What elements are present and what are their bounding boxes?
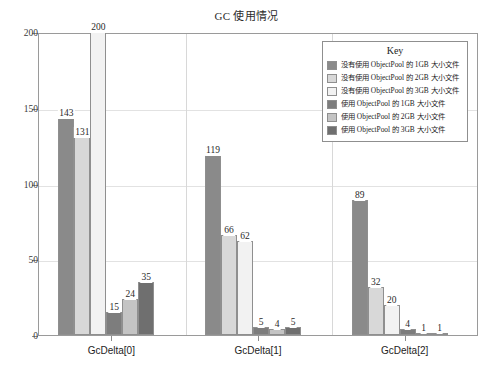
legend-swatch-icon (327, 74, 337, 83)
chart-title: GC 使用情况 (0, 7, 493, 23)
legend-item: 使用 ObjectPool 的 2GB 大小文件 (327, 111, 463, 123)
legend-swatch-icon (327, 126, 337, 135)
bar (90, 32, 106, 335)
bar-value-label: 143 (58, 108, 74, 119)
y-tick-label: 150 (10, 104, 38, 114)
y-tick-label: 0 (10, 331, 38, 341)
y-axis: 050100150200 (0, 33, 38, 336)
bar (122, 299, 138, 335)
bar (58, 118, 74, 335)
bar-value-label: 62 (239, 231, 251, 242)
bar-value-label: 4 (404, 319, 411, 330)
bar-value-label: 35 (141, 272, 153, 283)
y-tick-label: 50 (10, 255, 38, 265)
bar (221, 235, 237, 335)
bar-value-label: 32 (370, 277, 382, 288)
bar (253, 327, 269, 335)
x-tick-mark (258, 336, 259, 341)
legend-item: 没有使用 ObjectPool 的 3GB 大小文件 (327, 85, 463, 97)
y-tick-label: 200 (10, 28, 38, 38)
bar-value-label: 1 (436, 323, 443, 334)
legend-label: 没有使用 ObjectPool 的 2GB 大小文件 (341, 73, 459, 83)
x-tick-label: GcDelta[1] (234, 345, 281, 356)
x-tick-mark (405, 336, 406, 341)
legend-item: 使用 ObjectPool 的 1GB 大小文件 (327, 98, 463, 110)
legend-item: 使用 ObjectPool 的 3GB 大小文件 (327, 124, 463, 136)
legend-label: 没有使用 ObjectPool 的 3GB 大小文件 (341, 86, 459, 96)
bar (138, 282, 154, 335)
bar (285, 327, 301, 335)
bar-value-label: 5 (258, 317, 265, 328)
bar-value-label: 66 (223, 225, 235, 236)
bar-value-label: 5 (290, 317, 297, 328)
legend-label: 使用 ObjectPool 的 2GB 大小文件 (341, 112, 445, 122)
legend-swatch-icon (327, 113, 337, 122)
legend-item-list: 没有使用 ObjectPool 的 1GB 大小文件没有使用 ObjectPoo… (327, 59, 463, 136)
bar-value-label: 89 (354, 190, 366, 201)
x-axis: GcDelta[0]GcDelta[1]GcDelta[2] (38, 336, 478, 366)
bar-value-label: 131 (74, 127, 90, 138)
x-tick-label: GcDelta[0] (88, 345, 135, 356)
bar (384, 305, 400, 335)
legend-swatch-icon (327, 87, 337, 96)
bar (106, 312, 122, 335)
bar-value-label: 24 (125, 289, 137, 300)
bar (74, 137, 90, 335)
legend-label: 使用 ObjectPool 的 1GB 大小文件 (341, 99, 445, 109)
gc-usage-bar-chart: GC 使用情况 050100150200 1431312001524351196… (0, 0, 493, 371)
bar (237, 241, 253, 335)
bar (352, 200, 368, 335)
legend-item: 没有使用 ObjectPool 的 2GB 大小文件 (327, 72, 463, 84)
legend-title: Key (327, 45, 463, 59)
x-tick-mark (111, 336, 112, 341)
bar-value-label: 119 (205, 145, 221, 156)
x-tick-label: GcDelta[2] (381, 345, 428, 356)
legend-swatch-icon (327, 100, 337, 109)
bar-value-label: 4 (274, 319, 281, 330)
bar-value-label: 1 (420, 323, 427, 334)
y-tick-label: 100 (10, 180, 38, 190)
legend-item: 没有使用 ObjectPool 的 1GB 大小文件 (327, 59, 463, 71)
legend-swatch-icon (327, 61, 337, 70)
legend-label: 没有使用 ObjectPool 的 1GB 大小文件 (341, 60, 459, 70)
legend: Key 没有使用 ObjectPool 的 1GB 大小文件没有使用 Objec… (322, 41, 468, 142)
group-separator (186, 34, 187, 335)
bar-value-label: 200 (90, 22, 106, 33)
bar (368, 287, 384, 335)
bar-value-label: 15 (109, 302, 121, 313)
bar-value-label: 20 (386, 295, 398, 306)
bar (205, 155, 221, 335)
legend-label: 使用 ObjectPool 的 3GB 大小文件 (341, 125, 445, 135)
